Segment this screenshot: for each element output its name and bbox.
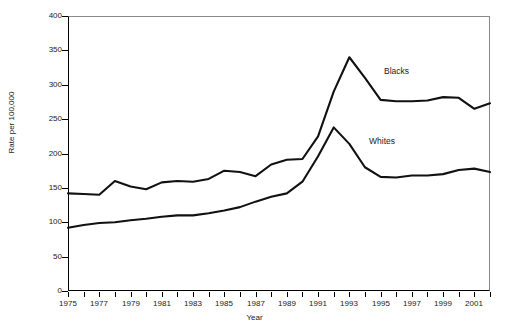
y-axis-tick: [62, 188, 68, 189]
x-axis-tick: [302, 292, 303, 297]
x-axis-tick: [443, 292, 444, 297]
x-axis-title: Year: [0, 313, 509, 322]
y-axis-tick-label: 150: [8, 184, 62, 192]
y-axis-tick: [62, 50, 68, 51]
x-axis-tick: [459, 292, 460, 297]
y-axis-tick: [62, 257, 68, 258]
y-axis-tick-label: 300: [8, 81, 62, 89]
plot-area-frame: [68, 16, 490, 291]
x-axis-tick: [427, 292, 428, 297]
x-axis-tick: [99, 292, 100, 297]
x-axis-tick: [162, 292, 163, 297]
chart-container: 050100150200250300350400 197519771979198…: [0, 0, 509, 334]
x-axis-tick: [224, 292, 225, 297]
y-axis-tick-label: 0: [8, 287, 62, 295]
x-axis-tick: [334, 292, 335, 297]
x-axis-tick: [490, 292, 491, 297]
x-axis-tick: [412, 292, 413, 297]
x-axis-tick: [287, 292, 288, 297]
y-axis-tick-label: 250: [8, 115, 62, 123]
x-axis-tick: [115, 292, 116, 297]
x-axis-tick: [318, 292, 319, 297]
series-label-blacks: Blacks: [384, 66, 409, 76]
x-axis-tick: [256, 292, 257, 297]
series-label-whites: Whites: [369, 136, 395, 146]
y-axis-tick-label: 50: [8, 253, 62, 261]
x-axis-tick: [365, 292, 366, 297]
x-axis-tick: [209, 292, 210, 297]
y-axis-tick: [62, 119, 68, 120]
x-axis-tick: [84, 292, 85, 297]
x-axis-tick: [474, 292, 475, 297]
x-axis-tick: [193, 292, 194, 297]
y-axis-tick-label: 200: [8, 150, 62, 158]
x-axis-tick: [396, 292, 397, 297]
x-axis-tick: [271, 292, 272, 297]
y-axis-title: Rate per 100,000: [7, 73, 16, 173]
y-axis-tick: [62, 16, 68, 17]
x-axis-tick: [177, 292, 178, 297]
x-axis-tick: [240, 292, 241, 297]
x-axis-tick: [381, 292, 382, 297]
x-axis-tick: [349, 292, 350, 297]
y-axis-tick-label: 400: [8, 12, 62, 20]
x-axis-tick: [68, 292, 69, 297]
x-axis-tick-label: 2001: [454, 299, 494, 308]
x-axis-tick: [146, 292, 147, 297]
y-axis-tick: [62, 154, 68, 155]
y-axis-tick-label: 350: [8, 46, 62, 54]
y-axis-tick: [62, 222, 68, 223]
y-axis-tick-label: 100: [8, 218, 62, 226]
y-axis-tick: [62, 85, 68, 86]
x-axis-tick: [131, 292, 132, 297]
